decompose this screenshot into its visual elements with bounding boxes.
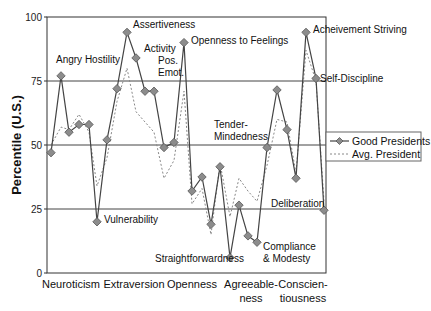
domain-neuroticism: Neuroticism: [42, 278, 100, 290]
chart: 100 75 50 25 0 Percentile (U.S.) Neuroti…: [0, 0, 431, 311]
annotation-compliance-2: & Modesty: [263, 253, 310, 264]
domain-conscientiousness-1: Conscien-: [278, 278, 328, 290]
data-point-diamond-icon: [235, 201, 243, 209]
data-point-diamond-icon: [273, 86, 281, 94]
annotation-openness-feelings: Openness to Feelings: [191, 35, 288, 46]
ytick-75: 75: [31, 76, 43, 87]
data-point-diamond-icon: [188, 187, 196, 195]
data-point-diamond-icon: [141, 87, 149, 95]
data-point-diamond-icon: [150, 87, 158, 95]
ytick-25: 25: [31, 204, 43, 215]
annotation-assertiveness: Assertiveness: [133, 19, 195, 30]
annotation-pos-emot-1: Pos.: [158, 55, 178, 66]
data-point-diamond-icon: [283, 125, 291, 133]
legend-good-presidents: Good Presidents: [352, 135, 430, 147]
domain-extraversion: Extraversion: [103, 278, 164, 290]
ytick-50: 50: [31, 140, 43, 151]
data-point-diamond-icon: [85, 120, 93, 128]
annotation-self-discipline: Self-Discipline: [320, 73, 384, 84]
data-point-diamond-icon: [123, 28, 131, 36]
data-point-diamond-icon: [103, 136, 111, 144]
data-point-diamond-icon: [244, 232, 252, 240]
gridlines: [47, 81, 326, 209]
domain-conscientiousness-2: tiousness: [280, 292, 327, 304]
annotation-achievement-striving: Acheivement Striving: [313, 24, 407, 35]
ytick-100: 100: [25, 12, 42, 23]
data-point-diamond-icon: [292, 174, 300, 182]
data-point-diamond-icon: [207, 220, 215, 228]
domain-agreeableness-1: Agreeable-: [224, 278, 278, 290]
y-axis-label: Percentile (U.S.): [9, 95, 24, 195]
data-point-diamond-icon: [57, 72, 65, 80]
domain-agreeableness-2: ness: [239, 292, 263, 304]
annotation-vulnerability: Vulnerability: [104, 214, 158, 225]
data-point-diamond-icon: [132, 54, 140, 62]
data-point-diamond-icon: [93, 218, 101, 226]
annotation-angry-hostility: Angry Hostility: [56, 54, 120, 65]
annotation-deliberation: Deliberation: [271, 198, 324, 209]
data-point-diamond-icon: [180, 38, 188, 46]
data-point-diamond-icon: [216, 163, 224, 171]
data-point-diamond-icon: [47, 148, 55, 156]
data-point-diamond-icon: [253, 238, 261, 246]
data-point-diamond-icon: [198, 173, 206, 181]
domain-openness: Openness: [167, 278, 218, 290]
annotation-pos-emot-2: Emot.: [158, 67, 184, 78]
annotation-tender-1: Tender-: [214, 119, 248, 130]
annotation-compliance-1: Compliance: [263, 241, 316, 252]
data-point-diamond-icon: [113, 84, 121, 92]
annotation-straightforwardness: Straightforwardness: [155, 253, 244, 264]
annotation-tender-2: Mindedness: [214, 131, 268, 142]
data-point-diamond-icon: [302, 28, 310, 36]
legend: Good Presidents Avg. President: [326, 132, 430, 161]
legend-avg-president: Avg. President: [352, 148, 420, 160]
annotation-activity: Activity: [144, 43, 176, 54]
